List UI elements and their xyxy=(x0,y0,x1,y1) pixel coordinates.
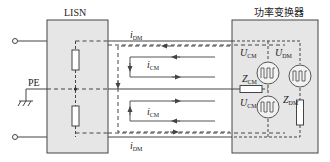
ucm-top-label: UCM xyxy=(240,48,257,59)
udm-label: UDM xyxy=(275,48,292,59)
terminal-top xyxy=(13,39,18,44)
icm-top-label: iCM xyxy=(147,60,159,71)
ucm-bottom-label: UCM xyxy=(240,98,257,109)
lisn-resistor-top xyxy=(72,50,79,70)
ucm-source-bottom xyxy=(257,96,279,118)
idm-top-label: iDM xyxy=(130,30,142,41)
lisn-label: LISN xyxy=(64,8,86,18)
icm-bottom-label: iCM xyxy=(147,107,159,118)
converter-label: 功率变换器 xyxy=(254,8,304,18)
udm-source xyxy=(289,65,311,87)
circuit-diagram xyxy=(0,0,330,162)
zdm-label: ZDM xyxy=(283,95,298,106)
ground-icon xyxy=(18,89,47,106)
zcm-label: ZCM xyxy=(242,74,257,85)
lisn-resistor-bottom xyxy=(72,106,79,126)
zcm-resistor xyxy=(240,86,262,93)
ucm-source-top xyxy=(257,62,279,84)
idm-bottom-label: iDM xyxy=(130,141,142,152)
pe-label: PE xyxy=(28,78,40,88)
terminal-bottom xyxy=(13,135,18,140)
